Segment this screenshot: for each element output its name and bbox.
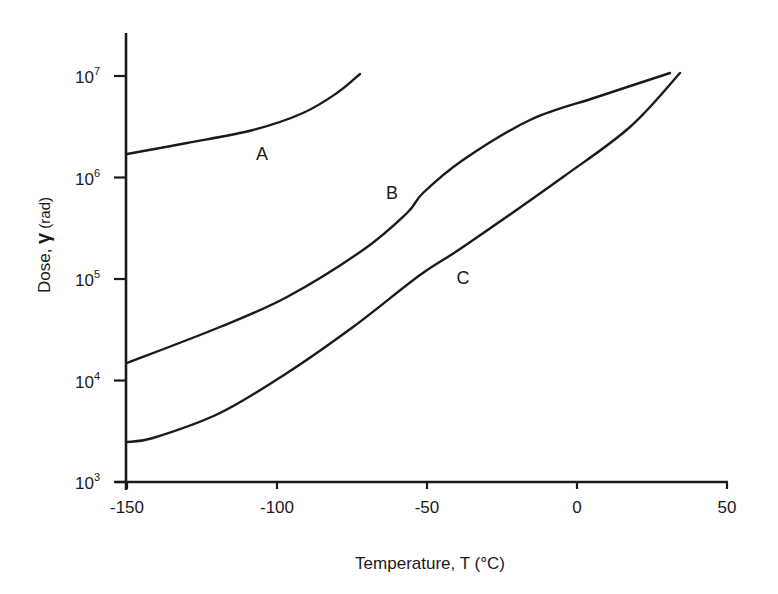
y-axis-title: Dose, γ (rad)	[32, 197, 54, 293]
curve-label-a: A	[256, 144, 268, 164]
curve-b	[127, 73, 670, 363]
curve-a	[127, 74, 360, 154]
plot-area: -150-100-50050103104105106107Temperature…	[32, 33, 736, 573]
x-tick-label: -150	[110, 498, 144, 517]
y-tick-label: 107	[75, 65, 100, 87]
y-tick-label: 106	[75, 167, 100, 189]
dose-vs-temperature-chart: -150-100-50050103104105106107Temperature…	[0, 0, 778, 594]
y-tick-label: 103	[75, 471, 100, 493]
curve-label-c: C	[457, 268, 470, 288]
y-tick-label: 105	[75, 268, 100, 290]
y-tick-label: 104	[75, 370, 100, 392]
x-tick-label: -100	[260, 498, 294, 517]
x-tick-label: -50	[415, 498, 440, 517]
curve-label-b: B	[386, 183, 398, 203]
x-tick-label: 50	[718, 498, 737, 517]
x-tick-label: 0	[572, 498, 581, 517]
curve-c	[127, 73, 680, 442]
x-axis-title: Temperature, T (°C)	[355, 554, 505, 573]
